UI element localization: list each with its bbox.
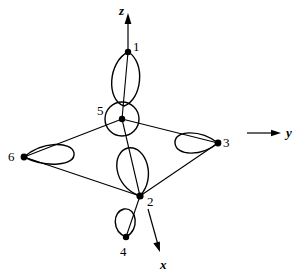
axis-x-line (148, 209, 158, 243)
edge-5-2 (122, 119, 140, 196)
node-dot-1[interactable] (125, 49, 131, 55)
self-loop-node-2 (117, 148, 149, 196)
self-loops-group (24, 52, 218, 237)
node-dot-5[interactable] (119, 116, 125, 122)
node-dot-6[interactable] (21, 154, 28, 161)
axis-label-x: x (160, 258, 167, 271)
axis-label-y: y (286, 126, 292, 139)
node-dot-3[interactable] (215, 140, 222, 147)
graph-diagram-figure: 1 5 3 6 2 4 z y x (0, 0, 303, 279)
axis-z-arrowhead (125, 13, 132, 24)
axis-y (247, 130, 281, 136)
node-label-1: 1 (133, 40, 140, 53)
diagram-canvas (0, 0, 303, 279)
edge-1-5 (122, 52, 128, 119)
self-loop-node-4 (115, 209, 135, 237)
node-label-5: 5 (97, 104, 104, 117)
edge-5-3 (122, 119, 218, 143)
node-label-4: 4 (120, 245, 127, 258)
axis-z (125, 13, 132, 52)
node-dot-4[interactable] (123, 234, 129, 240)
node-dot-2[interactable] (136, 192, 143, 199)
axis-x-arrowhead (153, 241, 160, 252)
node-label-6: 6 (8, 150, 15, 163)
edge-3-2 (140, 143, 218, 196)
axis-y-arrowhead (271, 130, 281, 136)
axis-label-z: z (119, 4, 124, 17)
node-label-3: 3 (223, 136, 230, 149)
axis-x (148, 209, 160, 252)
node-label-2: 2 (147, 195, 154, 208)
self-loop-node-3 (175, 133, 218, 153)
